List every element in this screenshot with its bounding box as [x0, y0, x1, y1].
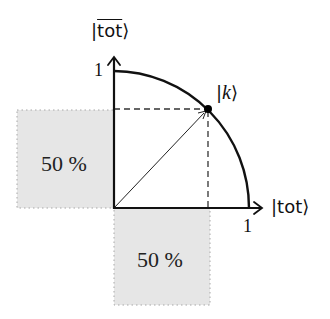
x-axis-tick-1: 1 [243, 217, 252, 235]
bottom-region-label: 50 % [137, 249, 183, 271]
y-axis-label-core: tot [97, 20, 122, 41]
point-k-label-angle: ⟩ [231, 82, 238, 103]
state-vector [114, 113, 204, 208]
point-k-dot [204, 105, 212, 113]
y-axis-label-angle: ⟩ [122, 20, 129, 41]
x-axis-label-core: tot [277, 196, 302, 217]
y-axis-tick-1: 1 [94, 61, 103, 79]
x-axis-label: |tot⟩ [271, 198, 309, 216]
y-axis-label: |tot⟩ [91, 22, 129, 40]
point-k-label: |k⟩ [216, 82, 238, 102]
x-axis-label-angle: ⟩ [302, 196, 309, 217]
point-k-label-core: k [222, 81, 231, 103]
left-region-label: 50 % [41, 153, 87, 175]
